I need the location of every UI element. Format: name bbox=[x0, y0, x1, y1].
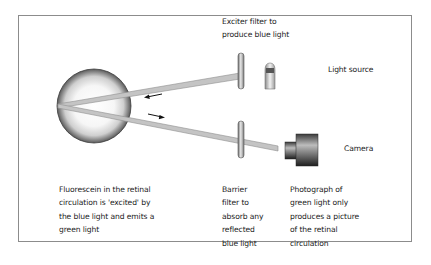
exciter-filter-icon bbox=[238, 53, 244, 89]
camera-icon bbox=[285, 134, 318, 166]
light-source-icon bbox=[265, 63, 275, 89]
barrier-filter-icon bbox=[238, 121, 244, 158]
photograph-label: Photograph of green light only produces … bbox=[290, 183, 359, 250]
barrier-filter-label: Barrier filter to absorb any reflected b… bbox=[222, 183, 263, 250]
outgoing-arrow-icon bbox=[148, 114, 165, 119]
fluorescein-label: Fluorescein in the retinal circulation i… bbox=[59, 183, 154, 237]
light-source-label: Light source bbox=[328, 63, 373, 76]
incoming-arrow-icon bbox=[144, 94, 162, 99]
camera-label: Camera bbox=[344, 142, 373, 155]
exciter-filter-label: Exciter filter to produce blue light bbox=[222, 15, 289, 42]
